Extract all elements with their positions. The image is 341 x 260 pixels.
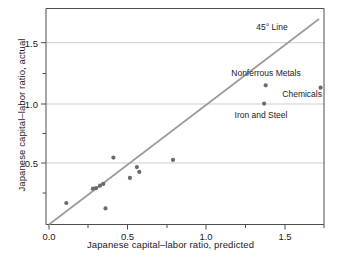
data-point xyxy=(64,201,68,205)
data-point xyxy=(101,182,105,186)
data-point xyxy=(111,156,115,160)
annotation-nonferrous-metals: Nonferrous Metals xyxy=(231,68,300,78)
x-axis-ticks xyxy=(49,225,324,230)
plot-canvas xyxy=(0,0,341,260)
data-point xyxy=(128,176,132,180)
data-point xyxy=(94,186,98,190)
reference-line-45deg xyxy=(49,19,319,225)
y-axis-title: Japanese capital–labor ratio, actual xyxy=(16,38,27,191)
y-axis-title-wrap: Japanese capital–labor ratio, actual xyxy=(11,15,29,215)
data-point xyxy=(135,165,139,169)
data-point-nonferrous-metals xyxy=(264,83,268,87)
annotation-45-degree-line: 45° Line xyxy=(256,22,287,32)
data-point xyxy=(137,170,141,174)
scatter-chart-figure: 0.0 0.5 1.0 1.5 0.5 1.0 1.5 Japanese cap… xyxy=(0,0,341,260)
annotation-chemicals: Chemicals xyxy=(282,89,322,99)
annotation-iron-and-steel: Iron and Steel xyxy=(235,110,288,120)
data-point xyxy=(171,158,175,162)
gridlines xyxy=(46,43,324,163)
data-point xyxy=(103,206,107,210)
data-points xyxy=(64,83,323,210)
y-axis-ticks xyxy=(41,43,46,193)
data-point-iron-and-steel xyxy=(262,102,266,106)
x-axis-title: Japanese capital–labor ratio, predicted xyxy=(0,239,341,250)
